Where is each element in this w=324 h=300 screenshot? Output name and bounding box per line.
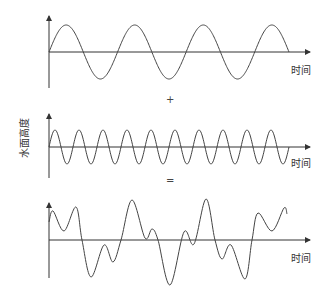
wave-superposition-diagram: 时间 + 时间 水面高度 = 时间 xyxy=(0,0,324,300)
x-axis-label: 时间 xyxy=(291,157,311,169)
panel-sum: 时间 xyxy=(49,199,311,285)
x-axis-label: 时间 xyxy=(291,252,311,264)
plus-sign: + xyxy=(166,94,174,105)
sum-wave-curve xyxy=(49,199,287,285)
y-axis-label: 水面高度 xyxy=(18,118,30,158)
equals-sign: = xyxy=(166,175,174,186)
panel-low-frequency: 时间 xyxy=(49,16,311,88)
high-frequency-wave-curve xyxy=(49,130,289,164)
panel-high-frequency: 时间 xyxy=(49,114,311,178)
x-axis-label: 时间 xyxy=(291,64,311,76)
